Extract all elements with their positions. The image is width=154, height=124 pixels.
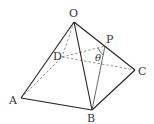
label-C: C bbox=[138, 65, 146, 78]
edge-BC bbox=[92, 70, 135, 110]
edge-AD bbox=[21, 57, 62, 98]
label-P: P bbox=[106, 33, 114, 46]
label-O: O bbox=[69, 7, 78, 20]
edge-OD bbox=[62, 22, 74, 57]
edge-OB bbox=[74, 22, 92, 110]
pyramid-diagram: O P D C A B θ bbox=[0, 0, 154, 124]
label-B: B bbox=[87, 112, 95, 124]
label-theta: θ bbox=[95, 52, 101, 63]
label-D: D bbox=[53, 50, 62, 63]
edge-OA bbox=[21, 22, 74, 98]
edge-AB bbox=[21, 98, 92, 110]
label-A: A bbox=[8, 94, 18, 107]
edge-OC bbox=[74, 22, 135, 70]
